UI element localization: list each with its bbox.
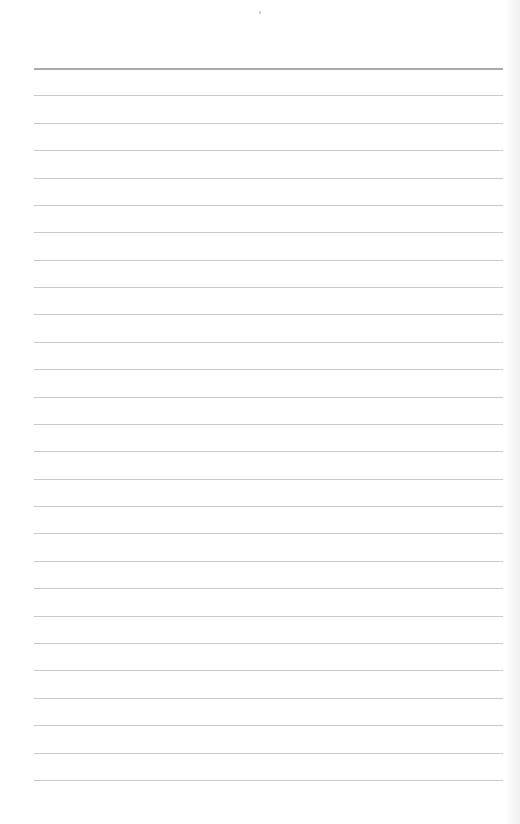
rule-line <box>34 506 503 507</box>
rule-line <box>34 205 503 206</box>
rule-line <box>34 616 503 617</box>
rule-line <box>34 314 503 315</box>
rule-line <box>34 780 503 781</box>
rule-line <box>34 753 503 754</box>
rule-line <box>34 369 503 370</box>
rule-line <box>34 342 503 343</box>
rule-line <box>34 123 503 124</box>
rule-line <box>34 397 503 398</box>
rule-line <box>34 725 503 726</box>
rule-line <box>34 698 503 699</box>
rule-line <box>34 260 503 261</box>
rule-line <box>34 232 503 233</box>
rule-line <box>34 643 503 644</box>
rule-line <box>34 670 503 671</box>
rule-line <box>34 150 503 151</box>
rule-line <box>34 95 503 96</box>
rule-line <box>34 479 503 480</box>
rule-line <box>34 561 503 562</box>
rule-line <box>34 287 503 288</box>
rule-line <box>34 424 503 425</box>
header-rule-line <box>34 68 503 70</box>
page-mark <box>259 11 261 14</box>
rule-line <box>34 451 503 452</box>
rule-line <box>34 588 503 589</box>
rule-line <box>34 178 503 179</box>
lined-paper-page <box>0 0 520 824</box>
rule-line <box>34 533 503 534</box>
